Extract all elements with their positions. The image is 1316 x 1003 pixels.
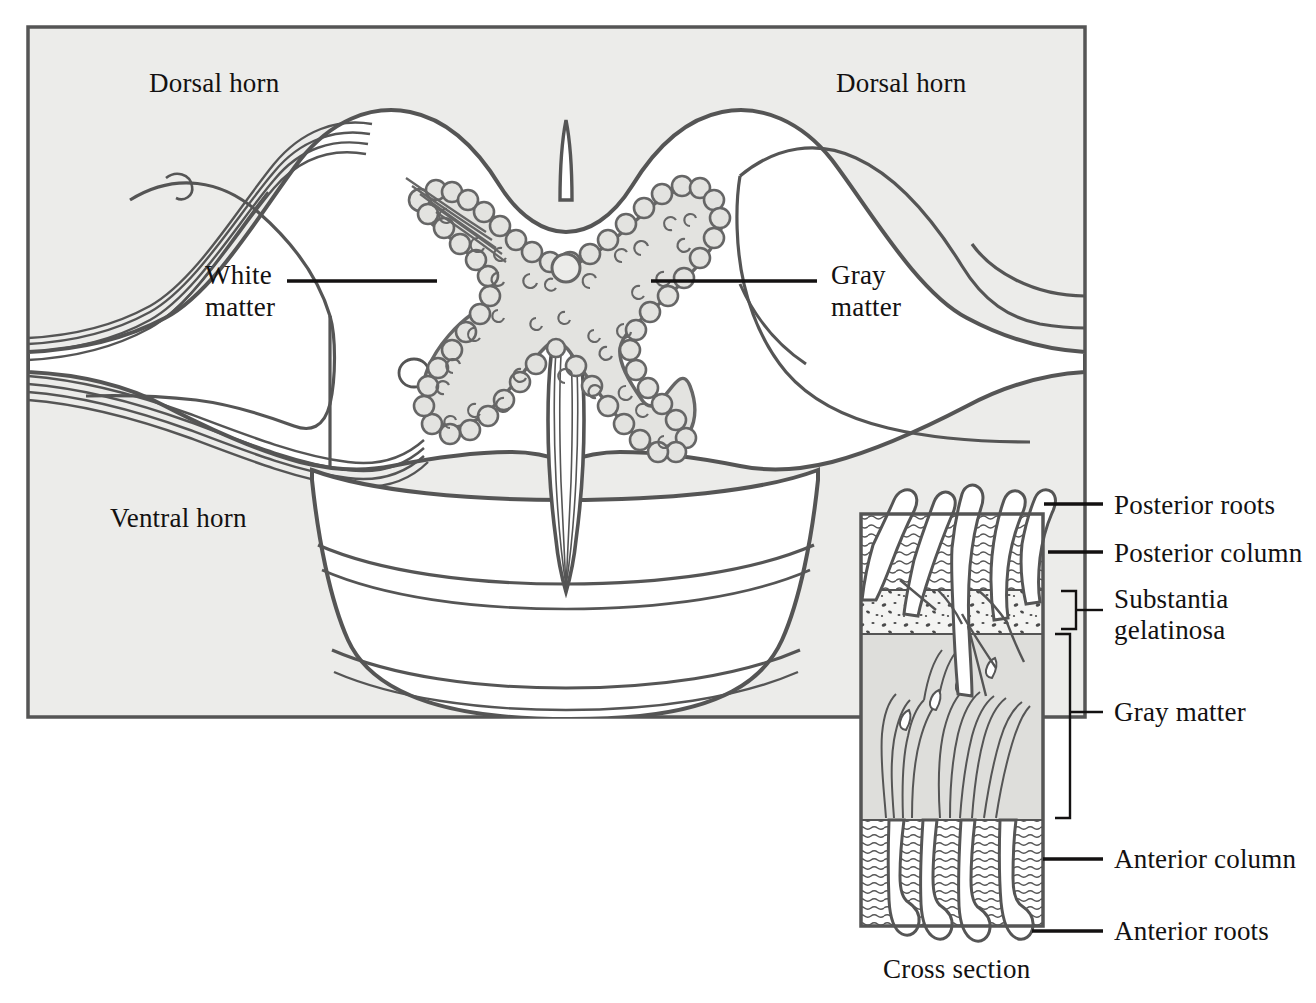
label-dorsal-horn-left: Dorsal horn (149, 67, 279, 100)
label-substantia-gelatinosa-line2: gelatinosa (1114, 614, 1225, 647)
figure-stage: Dorsal horn Dorsal horn White matter Gra… (0, 0, 1316, 1003)
label-posterior-roots: Posterior roots (1114, 489, 1275, 522)
label-white-matter-line1: White (205, 259, 272, 292)
label-anterior-roots: Anterior roots (1114, 915, 1269, 948)
gray-matter-band (861, 634, 1043, 820)
label-gray-matter-inset: Gray matter (1114, 696, 1246, 729)
label-anterior-column: Anterior column (1114, 843, 1296, 876)
label-substantia-gelatinosa-line1: Substantia (1114, 583, 1229, 616)
label-ventral-horn: Ventral horn (110, 502, 247, 535)
label-gray-matter-line1: Gray (831, 259, 886, 292)
label-white-matter-line2: matter (205, 291, 275, 324)
central-canal (552, 254, 580, 282)
label-dorsal-horn-right: Dorsal horn (836, 67, 966, 100)
caption-cross-section: Cross section (883, 953, 1030, 986)
inset-cross-section (861, 485, 1055, 941)
label-posterior-column: Posterior column (1114, 537, 1302, 570)
label-gray-matter-line2: matter (831, 291, 901, 324)
